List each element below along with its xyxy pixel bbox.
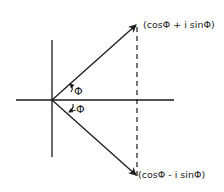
lower-angle-label: -Φ — [72, 103, 85, 116]
complex-plane-diagram: Φ -Φ (cosΦ + i sinΦ) (cosΦ - i sinΦ) — [0, 0, 224, 192]
upper-point-label: (cosΦ + i sinΦ) — [143, 19, 215, 30]
upper-angle-arc-icon — [70, 84, 72, 92]
lower-point-label: (cosΦ - i sinΦ) — [138, 169, 205, 180]
lower-vector-arrow — [52, 100, 136, 175]
upper-vector-arrow — [52, 25, 136, 100]
upper-angle-label: Φ — [74, 85, 83, 98]
